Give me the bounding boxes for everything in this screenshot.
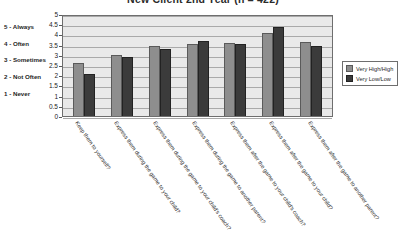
legend-item[interactable]: Very Low/Low	[346, 75, 393, 82]
y-axis: 00.511.522.533.544.55	[40, 15, 62, 117]
bar-group	[141, 16, 179, 116]
y-axis-tick-label: 2.5	[49, 63, 58, 70]
bar-group	[65, 16, 103, 116]
chart-title: New Client 2nd Year (n = 422)	[0, 0, 406, 5]
y-axis-tick-label: 3	[54, 53, 58, 60]
legend-label: Very High/High	[356, 66, 393, 72]
bar-group	[179, 16, 217, 116]
bar-0-5[interactable]	[262, 33, 273, 116]
x-axis-category-label: Express them after the game to your chil…	[268, 120, 334, 211]
chart-legend: Very High/HighVery Low/Low	[342, 61, 398, 86]
legend-label: Very Low/Low	[356, 76, 391, 82]
y-axis-tick-label: 1	[54, 93, 58, 100]
y-axis-tick-label: 1.5	[49, 83, 58, 90]
bar-1-1[interactable]	[122, 57, 133, 116]
bar-1-4[interactable]	[235, 44, 246, 116]
bar-1-6[interactable]	[311, 46, 322, 116]
y-axis-tick-label: 3.5	[49, 42, 58, 49]
x-axis-category-label: Express them during the game to another …	[191, 120, 267, 225]
chart-container: New Client 2nd Year (n = 422) 5 - Always…	[0, 0, 406, 238]
legend-item[interactable]: Very High/High	[346, 65, 393, 72]
x-axis-category-label: Express them after the game to your chil…	[229, 120, 307, 227]
y-axis-tick-label: 2	[54, 73, 58, 80]
bars-layer	[63, 16, 332, 116]
bar-0-2[interactable]	[149, 46, 160, 116]
y-axis-tick-label: 4	[54, 32, 58, 39]
x-axis-category-label: Express them after the game to another p…	[307, 120, 380, 221]
bar-group	[292, 16, 330, 116]
x-axis-category-label: Keep them to yourself?	[74, 120, 112, 171]
bar-0-3[interactable]	[187, 44, 198, 116]
y-axis-tick-label: 4.5	[49, 22, 58, 29]
plot-area	[62, 15, 333, 117]
bar-0-0[interactable]	[73, 63, 84, 116]
bar-group	[254, 16, 292, 116]
bar-0-1[interactable]	[111, 55, 122, 116]
x-axis-category-label: Express them during the game to your chi…	[113, 120, 182, 214]
bar-1-5[interactable]	[273, 27, 284, 116]
y-axis-tick-label: 5	[54, 12, 58, 19]
y-axis-tick-label: 0.5	[49, 104, 58, 111]
legend-swatch-icon	[346, 75, 353, 82]
x-axis-category-label: Express them during the game to your chi…	[152, 120, 232, 231]
bar-0-4[interactable]	[224, 43, 235, 116]
legend-swatch-icon	[346, 65, 353, 72]
y-axis-tick-label: 0	[54, 114, 58, 121]
bar-group	[103, 16, 141, 116]
bar-group	[216, 16, 254, 116]
x-axis-labels: Keep them to yourself?Express them durin…	[62, 118, 333, 236]
bar-1-0[interactable]	[84, 74, 95, 116]
bar-0-6[interactable]	[300, 42, 311, 116]
bar-1-2[interactable]	[160, 49, 171, 116]
bar-1-3[interactable]	[198, 41, 209, 116]
